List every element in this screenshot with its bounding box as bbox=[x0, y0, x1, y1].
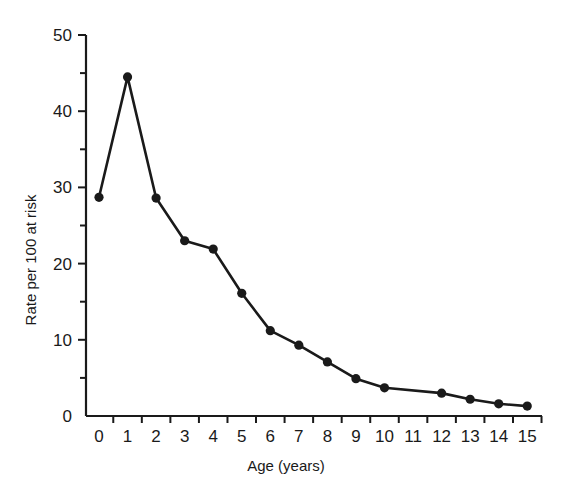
data-point bbox=[380, 383, 389, 392]
x-tick-label: 7 bbox=[294, 427, 303, 446]
x-tick-label: 5 bbox=[237, 427, 246, 446]
data-point bbox=[180, 236, 189, 245]
line-chart: 01020304050 0123456789101112131415 Age (… bbox=[0, 0, 569, 499]
data-point bbox=[294, 341, 303, 350]
data-point bbox=[523, 401, 532, 410]
x-tick-label: 2 bbox=[151, 427, 160, 446]
x-tick-label: 13 bbox=[461, 427, 480, 446]
x-tick-label: 4 bbox=[208, 427, 217, 446]
y-tick-label: 40 bbox=[53, 102, 72, 121]
y-ticks: 01020304050 bbox=[53, 26, 86, 426]
x-tick-label: 11 bbox=[404, 427, 422, 446]
y-tick-label: 10 bbox=[53, 331, 72, 350]
data-point bbox=[123, 72, 132, 81]
data-point bbox=[237, 289, 246, 298]
x-tick-label: 14 bbox=[489, 427, 508, 446]
x-tick-label: 15 bbox=[518, 427, 537, 446]
x-tick-label: 12 bbox=[432, 427, 451, 446]
data-point bbox=[209, 245, 218, 254]
y-tick-label: 50 bbox=[53, 26, 72, 45]
axes: 01020304050 0123456789101112131415 bbox=[53, 26, 542, 446]
x-tick-label: 1 bbox=[123, 427, 132, 446]
x-tick-label: 0 bbox=[94, 427, 103, 446]
x-axis-title: Age (years) bbox=[247, 457, 325, 474]
data-point bbox=[494, 399, 503, 408]
x-tick-label: 8 bbox=[323, 427, 332, 446]
x-tick-label: 3 bbox=[180, 427, 189, 446]
x-tick-label: 10 bbox=[375, 427, 394, 446]
x-tick-label: 9 bbox=[351, 427, 360, 446]
y-tick-label: 20 bbox=[53, 255, 72, 274]
x-ticks: 0123456789101112131415 bbox=[94, 416, 541, 446]
data-point bbox=[437, 389, 446, 398]
data-point bbox=[351, 374, 360, 383]
y-tick-label: 30 bbox=[53, 178, 72, 197]
data-point bbox=[466, 395, 475, 404]
data-point bbox=[323, 357, 332, 366]
series-line bbox=[99, 77, 527, 406]
data-point bbox=[152, 193, 161, 202]
data-point bbox=[266, 326, 275, 335]
y-tick-label: 0 bbox=[63, 407, 72, 426]
data-series bbox=[94, 72, 531, 410]
x-tick-label: 6 bbox=[266, 427, 275, 446]
y-axis-title: Rate per 100 at risk bbox=[22, 194, 39, 325]
data-point bbox=[94, 193, 103, 202]
